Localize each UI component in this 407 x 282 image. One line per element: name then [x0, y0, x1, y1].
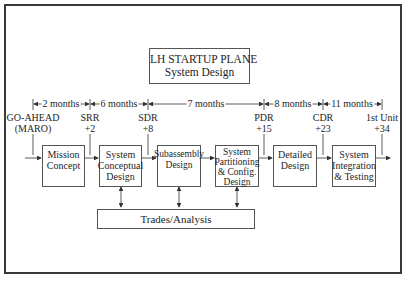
phase-label: Mission Concept	[47, 149, 80, 171]
milestone-cdr: CDR +23	[313, 112, 334, 134]
phase-system-integration-testing: System Integration & Testing	[332, 145, 376, 187]
milestone-offset: +23	[313, 123, 334, 134]
duration-label: 8 months	[274, 98, 313, 109]
milestone-offset: (MARO)	[7, 123, 60, 134]
phase-label: Subassembly Design	[154, 149, 204, 171]
milestone-first-unit: 1st Unit +34	[366, 112, 398, 134]
phase-system-partitioning-design: System Partitioning & Config. Design	[215, 145, 259, 187]
milestone-name: PDR	[254, 112, 273, 123]
phase-label: System Conceptual Design	[98, 149, 144, 182]
milestone-name: CDR	[313, 112, 334, 123]
phase-mission-concept: Mission Concept	[42, 145, 85, 187]
trades-analysis-box: Trades/Analysis	[97, 209, 255, 229]
milestone-offset: +34	[366, 123, 398, 134]
milestone-offset: +2	[81, 123, 100, 134]
phase-subassembly-design: Subassembly Design	[157, 145, 201, 187]
milestone-offset: +15	[254, 123, 273, 134]
phase-label: System Partitioning & Config. Design	[215, 147, 260, 187]
duration-label: 7 months	[187, 98, 226, 109]
duration-label: 2 months	[42, 98, 81, 109]
diagram-title-box: LH STARTUP PLANE System Design	[149, 48, 250, 84]
title-line-2: System Design	[150, 66, 249, 79]
duration-label: 11 months	[330, 98, 374, 109]
title-line-1: LH STARTUP PLANE	[150, 53, 249, 66]
milestone-name: 1st Unit	[366, 112, 398, 123]
milestone-pdr: PDR +15	[254, 112, 273, 134]
phase-label: System Integration & Testing	[332, 149, 376, 182]
duration-label: 6 months	[100, 98, 139, 109]
milestone-name: SRR	[81, 112, 100, 123]
phase-system-conceptual-design: System Conceptual Design	[99, 145, 142, 187]
milestone-go-ahead: GO-AHEAD (MARO)	[7, 112, 60, 134]
milestone-name: SDR	[138, 112, 157, 123]
milestone-srr: SRR +2	[81, 112, 100, 134]
phase-detailed-design: Detailed Design	[273, 145, 317, 187]
phase-label: Detailed Design	[278, 149, 312, 171]
milestone-sdr: SDR +8	[138, 112, 157, 134]
connector-lines	[0, 0, 407, 282]
milestone-name: GO-AHEAD	[7, 112, 60, 123]
milestone-offset: +8	[138, 123, 157, 134]
trades-analysis-label: Trades/Analysis	[140, 213, 211, 225]
